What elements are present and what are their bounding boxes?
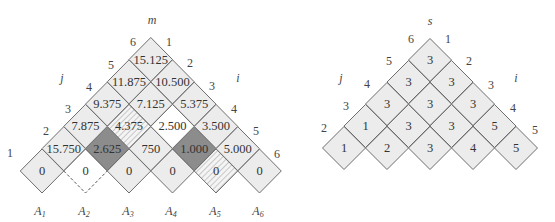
matrix-label-a2: A2 bbox=[77, 204, 89, 219]
s-table-diagram: s j i 2 3 4 5 6 1 2 3 4 5 1 2 3 4 5 bbox=[321, 14, 538, 170]
m-value: 0 bbox=[256, 164, 262, 178]
matrix-chain-diagrams: m j i 1 2 3 4 5 6 1 2 3 4 5 6 0 0 0 0 bbox=[0, 0, 555, 222]
j-axis-label: j bbox=[58, 71, 64, 85]
s-table-title: s bbox=[428, 14, 433, 28]
m-value: 0 bbox=[39, 164, 45, 178]
s-value: 1 bbox=[362, 119, 368, 133]
j-index: 1 bbox=[7, 146, 13, 160]
i-axis-label: i bbox=[514, 71, 517, 85]
s-value: 3 bbox=[405, 75, 411, 89]
m-value: 4.375 bbox=[115, 119, 143, 133]
m-table-title: m bbox=[148, 13, 157, 27]
m-value: 0 bbox=[126, 164, 132, 178]
m-value: 11.875 bbox=[112, 75, 146, 89]
i-index: 1 bbox=[445, 32, 451, 46]
j-index: 4 bbox=[86, 80, 92, 94]
s-value: 3 bbox=[470, 97, 476, 111]
matrix-label-a6: A6 bbox=[251, 204, 263, 219]
m-value: 5.375 bbox=[180, 97, 208, 111]
m-value: 9.375 bbox=[93, 97, 121, 111]
j-index: 5 bbox=[386, 54, 392, 68]
s-value: 2 bbox=[384, 141, 390, 155]
m-value: 10.500 bbox=[155, 75, 189, 89]
j-index: 6 bbox=[408, 32, 414, 46]
s-value: 3 bbox=[405, 119, 411, 133]
m-value: 1.000 bbox=[180, 142, 208, 156]
s-value: 3 bbox=[427, 53, 433, 67]
j-axis-label: j bbox=[337, 71, 343, 85]
m-value: 15.125 bbox=[134, 53, 168, 67]
m-table-diagram: m j i 1 2 3 4 5 6 1 2 3 4 5 6 0 0 0 0 bbox=[7, 13, 281, 219]
j-index: 2 bbox=[321, 121, 327, 135]
m-value: 0 bbox=[213, 164, 219, 178]
m-value: 0 bbox=[82, 164, 88, 178]
i-index: 5 bbox=[532, 123, 538, 137]
i-index: 5 bbox=[253, 124, 259, 138]
j-index: 4 bbox=[364, 77, 370, 91]
s-value: 3 bbox=[427, 141, 433, 155]
matrix-labels: A1 A2 A3 A4 A5 A6 bbox=[33, 204, 263, 219]
m-row-4: 9.375 7.125 5.375 bbox=[86, 82, 217, 126]
i-index: 4 bbox=[510, 101, 516, 115]
j-index: 3 bbox=[343, 99, 349, 113]
s-value: 1 bbox=[341, 141, 347, 155]
i-index: 2 bbox=[466, 54, 472, 68]
s-value: 3 bbox=[448, 119, 454, 133]
m-value: 2.500 bbox=[158, 119, 186, 133]
matrix-label-a5: A5 bbox=[208, 204, 220, 219]
i-index: 3 bbox=[488, 78, 494, 92]
i-index: 3 bbox=[209, 79, 215, 93]
m-value: 3.500 bbox=[202, 119, 230, 133]
i-axis-label: i bbox=[236, 71, 239, 85]
matrix-label-a4: A4 bbox=[164, 204, 176, 219]
m-value: 15.750 bbox=[47, 142, 81, 156]
s-value: 5 bbox=[513, 141, 519, 155]
s-value: 5 bbox=[491, 119, 497, 133]
i-index: 1 bbox=[166, 35, 172, 49]
s-row-3: 3 3 3 bbox=[366, 83, 495, 126]
s-value: 3 bbox=[427, 97, 433, 111]
j-index: 3 bbox=[65, 102, 71, 116]
m-value: 750 bbox=[141, 142, 160, 156]
j-index: 5 bbox=[108, 58, 114, 72]
m-value: 5.000 bbox=[224, 142, 252, 156]
s-value: 4 bbox=[470, 141, 477, 155]
j-index: 2 bbox=[43, 124, 49, 138]
j-index: 6 bbox=[130, 35, 136, 49]
i-index: 6 bbox=[274, 147, 280, 161]
s-value: 3 bbox=[448, 75, 454, 89]
s-value: 3 bbox=[384, 97, 390, 111]
matrix-label-a3: A3 bbox=[121, 204, 133, 219]
i-index: 4 bbox=[231, 102, 237, 116]
matrix-label-a1: A1 bbox=[33, 204, 45, 219]
i-index: 2 bbox=[187, 56, 193, 70]
m-value: 2.625 bbox=[93, 142, 121, 156]
m-value: 7.125 bbox=[137, 97, 165, 111]
m-value: 0 bbox=[169, 164, 175, 178]
m-value: 7.875 bbox=[71, 119, 99, 133]
